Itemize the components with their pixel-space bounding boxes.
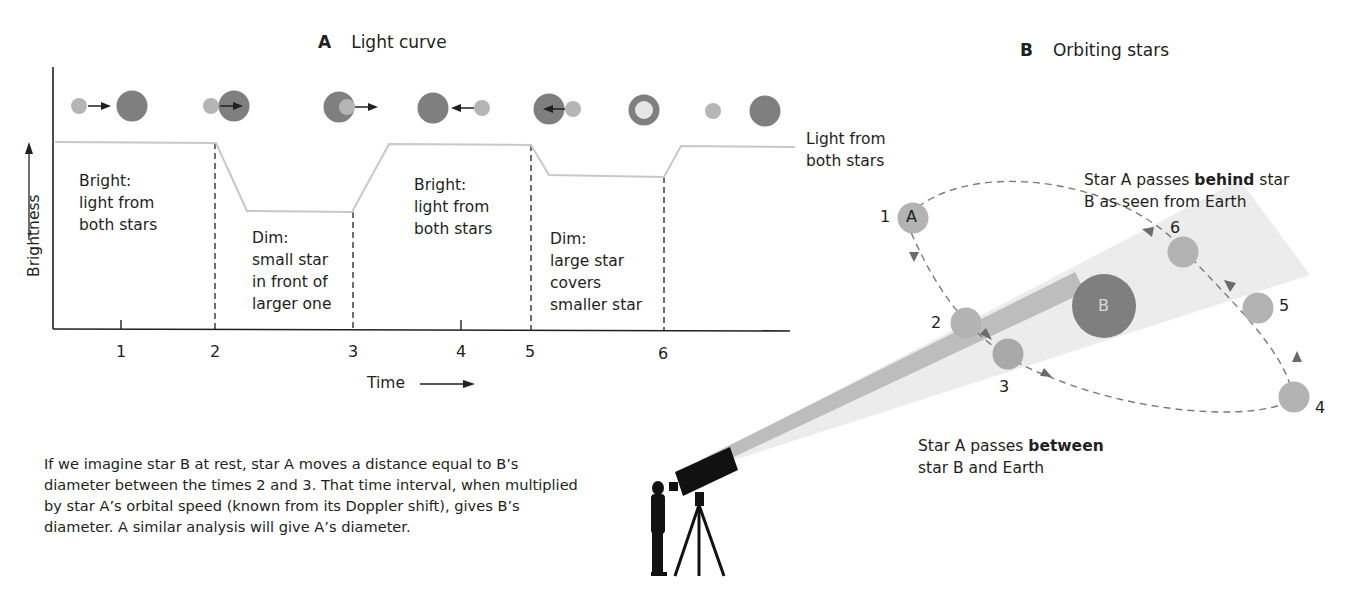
orbit-position-2: 2 <box>931 313 941 332</box>
x-tick-4: 4 <box>456 342 466 361</box>
region-label-dim-1: Dim: small star in front of larger one <box>252 227 331 315</box>
star-a-label: A <box>906 207 917 226</box>
y-axis-label: Brightness <box>25 197 43 277</box>
phase-icon-6 <box>629 95 660 126</box>
region-label-bright-1: Bright: light from both stars <box>79 170 157 236</box>
orbit-position-6: 6 <box>1170 218 1180 237</box>
orbit-position-5: 5 <box>1279 296 1289 315</box>
time-arrow-head <box>463 380 475 388</box>
panel-b-title-text: Orbiting stars <box>1053 40 1169 60</box>
phase-icon-1 <box>71 91 148 122</box>
region-label-dim-2: Dim: large star covers smaller star <box>550 228 642 316</box>
x-axis <box>53 329 790 331</box>
orbit-arrow-1-2 <box>909 252 919 262</box>
observer-silhouette-icon <box>651 481 667 576</box>
orbit-position-1: 1 <box>880 207 890 226</box>
behind-note: Star A passes behind star B as seen from… <box>1084 147 1344 213</box>
explanation-paragraph: If we imagine star B at rest, star A mov… <box>44 453 584 537</box>
star-a-position-3 <box>993 339 1024 370</box>
phase-icon-3 <box>324 92 379 123</box>
x-tick-1: 1 <box>116 342 126 361</box>
orbit-arrow-3-4 <box>1040 368 1052 377</box>
star-a-position-5 <box>1243 293 1274 324</box>
x-axis-label: Time <box>367 374 405 392</box>
phase-icon-2 <box>203 91 250 122</box>
star-a-position-6 <box>1168 237 1199 268</box>
star-b-label: B <box>1098 296 1109 315</box>
phase-icon-7 <box>705 96 781 127</box>
telescope-icon <box>669 447 738 576</box>
region-label-bright-2: Bright: light from both stars <box>414 174 492 240</box>
phase-icon-4 <box>418 93 491 124</box>
brightness-arrow-head <box>25 142 33 154</box>
x-tick-2: 2 <box>210 342 220 361</box>
panel-b-title: BOrbiting stars <box>1020 40 1169 60</box>
x-tick-3: 3 <box>348 342 358 361</box>
star-a-position-2 <box>951 308 982 339</box>
orbit-position-3: 3 <box>999 377 1009 396</box>
x-tick-5: 5 <box>525 342 535 361</box>
between-note: Star A passes between star B and Earth <box>918 413 1178 479</box>
curve-label: Light from both stars <box>806 128 886 172</box>
panel-b-letter: B <box>1020 40 1033 60</box>
phase-icon-5 <box>534 94 582 125</box>
orbit-arrow-4-5 <box>1292 351 1302 362</box>
x-tick-6: 6 <box>658 344 668 363</box>
orbit-position-4: 4 <box>1315 398 1325 417</box>
star-a-position-4 <box>1279 382 1310 413</box>
